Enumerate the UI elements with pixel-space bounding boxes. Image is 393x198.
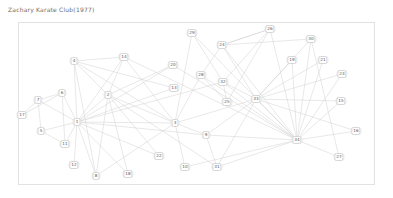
graph-node-label-21: 21 [318, 56, 327, 64]
graph-node-label-8: 8 [93, 172, 100, 180]
graph-node-label-22: 22 [154, 152, 163, 160]
graph-edge [77, 82, 223, 122]
graph-edge [223, 82, 297, 140]
graph-node-label-24: 24 [217, 41, 226, 49]
graph-node-label-32: 32 [218, 78, 227, 86]
graph-edge [270, 29, 297, 140]
graph-edge [77, 122, 96, 176]
graph-edge [77, 122, 128, 174]
graph-node-label-15: 15 [336, 97, 345, 105]
graph-edge [297, 74, 342, 140]
edge-layer [22, 29, 356, 176]
graph-node-label-25: 25 [222, 98, 231, 106]
graph-node-label-27: 27 [334, 153, 343, 161]
graph-node-label-6: 6 [59, 89, 66, 97]
graph-node-label-2: 2 [105, 91, 112, 99]
graph-node-label-5: 5 [38, 127, 45, 135]
graph-node-label-29: 29 [187, 29, 196, 37]
graph-node-label-11: 11 [60, 140, 69, 148]
graph-node-label-13: 13 [169, 84, 178, 92]
graph-edge [185, 140, 297, 167]
graph-node-label-26: 26 [265, 25, 274, 33]
graph-edge [74, 57, 124, 61]
graph-edge [74, 61, 175, 123]
graph-edge [222, 39, 311, 45]
graph-node-label-17: 17 [17, 111, 26, 119]
graph-edge [256, 99, 297, 140]
graph-edge [217, 99, 256, 167]
graph-edge [22, 93, 62, 115]
graph-edge [256, 60, 323, 99]
graph-node-label-19: 19 [287, 56, 296, 64]
graph-node-label-34: 34 [292, 136, 301, 144]
graph-edge [256, 99, 341, 101]
graph-node-label-28: 28 [196, 71, 205, 79]
network-graph-svg [0, 0, 393, 198]
graph-node-label-1: 1 [74, 118, 81, 126]
graph-edge [217, 140, 297, 167]
graph-node-label-16: 16 [351, 127, 360, 135]
graph-edge [77, 122, 206, 135]
graph-edge [175, 33, 192, 123]
graph-edge [77, 122, 159, 156]
graph-edge [173, 65, 297, 140]
graph-node-label-9: 9 [203, 131, 210, 139]
graph-edge [256, 39, 311, 99]
graph-edge [297, 140, 339, 157]
graph-node-label-18: 18 [123, 170, 132, 178]
graph-edge [108, 65, 173, 95]
graph-edge [297, 39, 311, 140]
graph-edge [74, 61, 108, 95]
graph-edge [124, 57, 297, 140]
graph-edge [77, 122, 175, 123]
graph-node-label-3: 3 [172, 119, 179, 127]
graph-node-label-4: 4 [71, 57, 78, 65]
graph-node-label-14: 14 [119, 53, 128, 61]
graph-edge [222, 45, 297, 140]
graph-edge [175, 75, 201, 123]
graph-node-label-10: 10 [180, 163, 189, 171]
graph-node-label-30: 30 [306, 35, 315, 43]
graph-node-label-23: 23 [337, 70, 346, 78]
graph-edge [41, 122, 77, 131]
graph-edge [96, 123, 175, 176]
graph-node-label-12: 12 [69, 161, 78, 169]
graph-node-label-31: 31 [212, 163, 221, 171]
figure-container: Zachary Karate Club(1977) 12345678910111… [0, 0, 393, 198]
graph-node-label-7: 7 [35, 96, 42, 104]
graph-edge [222, 45, 256, 99]
graph-edge [74, 61, 174, 88]
graph-edge [62, 93, 65, 144]
graph-edge [175, 99, 256, 123]
graph-edge [74, 122, 77, 165]
graph-node-label-33: 33 [251, 95, 260, 103]
graph-edge [256, 74, 342, 99]
graph-edge [206, 135, 297, 140]
graph-node-label-20: 20 [168, 61, 177, 69]
